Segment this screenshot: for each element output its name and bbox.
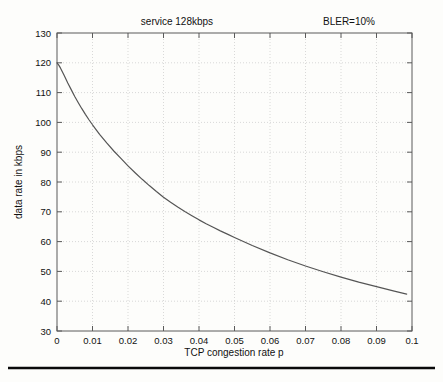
y-axis-tick-labels: 30405060708090100110120130: [35, 28, 51, 337]
x-tick-label: 0.04: [190, 335, 209, 346]
chart-title-left: service 128kbps: [141, 16, 213, 27]
y-tick-label: 30: [40, 326, 51, 337]
x-axis-tick-labels: 00.010.020.030.040.050.060.070.080.090.1: [54, 335, 418, 346]
x-tick-label: 0.01: [83, 335, 102, 346]
y-tick-label: 80: [40, 177, 51, 188]
x-tick-label: 0.06: [261, 335, 280, 346]
figure-canvas: 00.010.020.030.040.050.060.070.080.090.1…: [0, 0, 443, 382]
chart-title-right: BLER=10%: [323, 16, 375, 27]
y-tick-label: 130: [35, 28, 51, 39]
x-tick-label: 0.05: [225, 335, 244, 346]
y-tick-label: 70: [40, 206, 51, 217]
y-tick-label: 40: [40, 296, 51, 307]
x-tick-label: 0.03: [154, 335, 173, 346]
y-axis-title: data rate in kbps: [13, 145, 24, 219]
x-tick-label: 0.07: [296, 335, 315, 346]
y-tick-label: 90: [40, 147, 51, 158]
x-tick-label: 0.1: [405, 335, 418, 346]
x-tick-label: 0: [54, 335, 59, 346]
x-tick-label: 0.08: [332, 335, 351, 346]
y-tick-label: 100: [35, 117, 51, 128]
y-tick-label: 50: [40, 266, 51, 277]
y-tick-label: 60: [40, 236, 51, 247]
chart-plot: 00.010.020.030.040.050.060.070.080.090.1…: [0, 0, 443, 382]
y-tick-label: 120: [35, 57, 51, 68]
y-tick-label: 110: [36, 87, 51, 98]
x-axis-title: TCP congestion rate p: [184, 347, 284, 358]
x-tick-label: 0.02: [119, 335, 138, 346]
x-tick-label: 0.09: [367, 335, 386, 346]
